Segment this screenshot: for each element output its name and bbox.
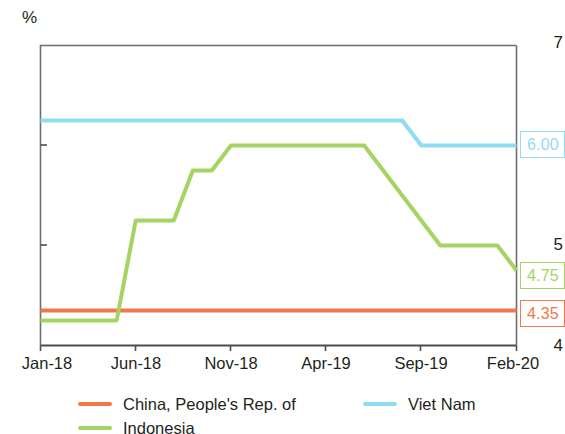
legend-swatch-indonesia <box>78 426 112 431</box>
legend-label-china: China, People's Rep. of <box>123 396 296 413</box>
legend-item-china: China, People's Rep. of <box>78 392 296 416</box>
legend-swatch-vietnam <box>363 402 397 407</box>
legend-item-indonesia: Indonesia <box>78 416 195 434</box>
legend-label-vietnam: Viet Nam <box>408 396 476 413</box>
legend-label-indonesia: Indonesia <box>123 420 195 434</box>
chart-legend: China, People's Rep. of Viet Nam Indones… <box>78 392 548 434</box>
value-callout-vietnam: 6.00 <box>520 131 565 158</box>
x-tick-label-jun-18: Jun-18 <box>111 355 161 372</box>
x-tick-label-feb-20: Feb-20 <box>487 355 539 372</box>
series-lines <box>41 121 517 321</box>
x-tick-label-nov-18: Nov-18 <box>204 355 257 372</box>
series-line-viet-nam <box>41 121 517 146</box>
legend-swatch-china <box>78 402 112 407</box>
x-tick-label-jan-18: Jan-18 <box>22 355 72 372</box>
value-callout-china: 4.35 <box>520 300 565 327</box>
legend-item-vietnam: Viet Nam <box>363 392 476 416</box>
series-line-indonesia <box>41 146 517 321</box>
axis-frame-top-left <box>41 46 517 346</box>
x-tick-label-sep-19: Sep-19 <box>394 355 447 372</box>
x-tick-label-apr-19: Apr-19 <box>301 355 351 372</box>
value-callout-indonesia: 4.75 <box>520 262 565 289</box>
